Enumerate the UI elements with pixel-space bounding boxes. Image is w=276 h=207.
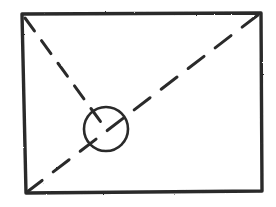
dashed-diagonal-top-left <box>25 18 103 125</box>
placeholder-image-icon <box>0 0 276 207</box>
image-placeholder-sketch: Image placeholder wireframe sketch <box>0 0 276 207</box>
center-circle <box>84 107 128 151</box>
dashed-diagonal-top-right <box>27 15 258 192</box>
